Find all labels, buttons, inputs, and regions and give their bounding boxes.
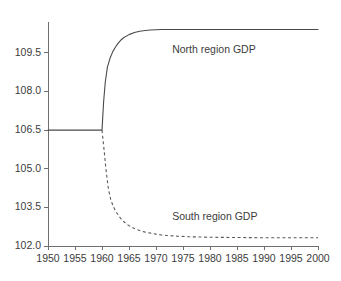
series-annotations: North region GDPSouth region GDP [172, 43, 257, 222]
y-axis-ticks [44, 53, 48, 246]
x-tick-label: 1960 [90, 252, 114, 264]
gdp-line-chart: 102.0103.5105.0106.5108.0109.5 195019551… [0, 0, 341, 281]
x-tick-label: 1985 [225, 252, 249, 264]
x-tick-label: 1990 [252, 252, 276, 264]
x-tick-label: 1995 [279, 252, 303, 264]
x-tick-label: 1975 [171, 252, 195, 264]
north-series-label: North region GDP [172, 43, 255, 55]
y-tick-label: 106.5 [15, 123, 41, 135]
y-axis: 102.0103.5105.0106.5108.0109.5 [15, 22, 48, 251]
x-tick-label: 1950 [36, 252, 60, 264]
y-tick-label: 102.0 [15, 239, 41, 251]
x-tick-label: 2000 [306, 252, 330, 264]
data-series-group [48, 29, 318, 237]
x-tick-label: 1980 [198, 252, 222, 264]
y-tick-label: 103.5 [15, 200, 41, 212]
x-tick-label: 1965 [117, 252, 141, 264]
x-axis: 1950195519601965197019751980198519901995… [36, 246, 330, 264]
x-tick-label: 1955 [63, 252, 87, 264]
x-tick-label: 1970 [144, 252, 168, 264]
south-series-label: South region GDP [172, 210, 257, 222]
x-axis-tick-labels: 1950195519601965197019751980198519901995… [36, 252, 330, 264]
chart-canvas: 102.0103.5105.0106.5108.0109.5 195019551… [0, 0, 341, 281]
y-axis-tick-labels: 102.0103.5105.0106.5108.0109.5 [15, 46, 41, 251]
x-axis-ticks [48, 246, 318, 250]
y-tick-label: 109.5 [15, 46, 41, 58]
y-tick-label: 105.0 [15, 162, 41, 174]
y-tick-label: 108.0 [15, 84, 41, 96]
